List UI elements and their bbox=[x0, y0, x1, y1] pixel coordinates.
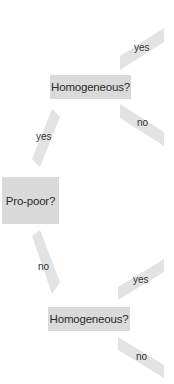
decision-tree-diagram: yes no yes no yes no Homogeneous? Pro-po… bbox=[0, 0, 174, 384]
decision-node-pro-poor: Pro-poor? bbox=[2, 177, 59, 224]
edge-label-bottom-no: no bbox=[136, 352, 147, 362]
node-label: Homogeneous? bbox=[50, 313, 129, 325]
node-label: Homogeneous? bbox=[51, 81, 130, 93]
edge-label-top-yes: yes bbox=[134, 43, 150, 53]
edge-label-top-no: no bbox=[137, 118, 148, 128]
decision-node-homogeneous-bottom: Homogeneous? bbox=[48, 307, 130, 331]
decision-node-homogeneous-top: Homogeneous? bbox=[50, 75, 131, 99]
node-label: Pro-poor? bbox=[6, 195, 55, 207]
edge-label-bottom-yes: yes bbox=[133, 275, 149, 285]
edge-label-root-no: no bbox=[38, 262, 49, 272]
edge-label-root-yes: yes bbox=[36, 132, 52, 142]
